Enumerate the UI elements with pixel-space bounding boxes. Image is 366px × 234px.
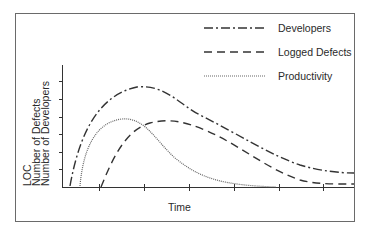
series — [70, 87, 354, 187]
legend-label-productivity: Productivity — [278, 70, 333, 82]
y-ticks — [59, 82, 62, 170]
series-developers — [70, 87, 354, 186]
y-axis-label: LOC Number of Defects Number of Develope… — [21, 81, 51, 186]
chart-frame — [16, 14, 355, 222]
y-axis-label-developers: Number of Developers — [39, 81, 51, 186]
x-axis-label: Time — [168, 201, 191, 213]
axes — [59, 65, 354, 191]
legend: Developers Logged Defects Productivity — [204, 22, 352, 82]
legend-label-developers: Developers — [278, 22, 331, 34]
series-logged-defects — [101, 121, 354, 187]
line-chart: Developers Logged Defects Productivity — [0, 0, 366, 234]
legend-label-logged-defects: Logged Defects — [278, 46, 352, 58]
